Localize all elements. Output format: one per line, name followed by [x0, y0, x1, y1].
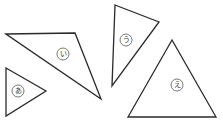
triangle-a: あ: [6, 68, 46, 116]
label-a: あ: [15, 87, 22, 95]
label-e: え: [174, 81, 181, 89]
label-u: う: [123, 36, 130, 44]
label-i: い: [60, 50, 67, 58]
triangle-e: え: [128, 40, 216, 117]
triangles-diagram: あ い う え: [0, 0, 223, 122]
